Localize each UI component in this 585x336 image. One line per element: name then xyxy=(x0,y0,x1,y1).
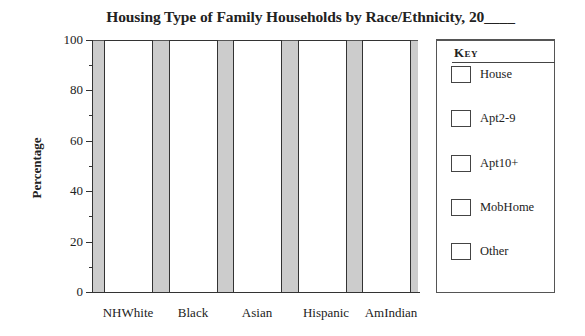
legend-swatch xyxy=(451,199,471,216)
x-tick-label-amindian: AmIndian xyxy=(351,305,431,321)
y-tick-minor xyxy=(89,267,92,268)
legend-label: MobHome xyxy=(480,200,534,215)
y-tick-major xyxy=(86,40,92,41)
legend-item-mobhome: MobHome xyxy=(451,199,534,216)
x-axis xyxy=(88,292,420,293)
y-tick-major xyxy=(86,292,92,293)
bar-asian xyxy=(233,40,282,293)
legend-swatch xyxy=(451,110,471,127)
y-tick-minor xyxy=(89,115,92,116)
bar-nhwhite xyxy=(104,40,153,293)
y-tick-label: 20 xyxy=(43,234,83,250)
y-tick-major xyxy=(86,141,92,142)
legend-swatch xyxy=(451,155,471,172)
y-tick-label: 80 xyxy=(43,82,83,98)
x-tick-label-asian: Asian xyxy=(217,305,297,321)
y-tick-label: 40 xyxy=(43,183,83,199)
legend-label: House xyxy=(480,67,512,82)
legend-item-apt10plus: Apt10+ xyxy=(451,155,518,172)
bar-black xyxy=(169,40,218,293)
legend-item-house: House xyxy=(451,66,512,83)
y-tick-label: 60 xyxy=(43,133,83,149)
bar-hispanic xyxy=(298,40,347,293)
legend-title: Key xyxy=(454,45,478,61)
y-tick-minor xyxy=(89,216,92,217)
legend-title-underline xyxy=(452,62,555,63)
y-tick-major xyxy=(86,191,92,192)
y-tick-minor xyxy=(89,65,92,66)
y-tick-label: 0 xyxy=(43,284,83,300)
legend-label: Apt10+ xyxy=(480,156,518,171)
bar-amindian xyxy=(362,40,411,293)
legend-label: Other xyxy=(480,244,508,259)
y-tick-minor xyxy=(89,166,92,167)
legend-label: Apt2-9 xyxy=(480,111,515,126)
legend-swatch xyxy=(451,243,471,260)
legend-swatch xyxy=(451,66,471,83)
y-axis xyxy=(92,40,93,293)
legend-item-apt2-9: Apt2-9 xyxy=(451,110,515,127)
y-tick-major xyxy=(86,242,92,243)
legend-top-border xyxy=(436,39,555,41)
chart-title: Housing Type of Family Households by Rac… xyxy=(0,8,585,26)
y-tick-label: 100 xyxy=(43,32,83,48)
legend-item-other: Other xyxy=(451,243,508,260)
y-tick-major xyxy=(86,90,92,91)
